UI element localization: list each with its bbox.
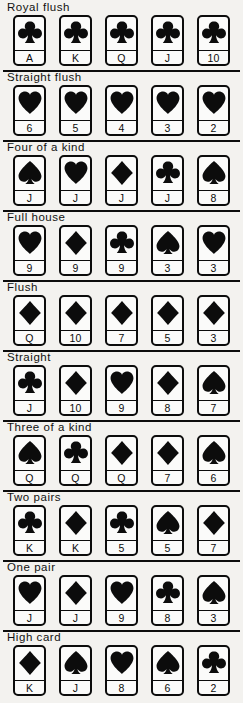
club-suit-icon — [61, 19, 90, 47]
heart-suit-icon — [199, 229, 228, 257]
card-row: Q10753 — [0, 295, 243, 349]
card-rank-label: 2 — [199, 681, 228, 695]
heart-suit-icon — [199, 89, 228, 117]
diamond-suit-icon — [61, 369, 90, 397]
club-suit-icon — [153, 579, 182, 607]
card-rank-label: 10 — [61, 331, 90, 345]
playing-card: 3 — [197, 575, 230, 626]
playing-card: 3 — [151, 85, 184, 136]
diamond-suit-icon — [199, 509, 228, 537]
playing-card: J — [59, 575, 92, 626]
card-rank-label: 10 — [61, 401, 90, 415]
playing-card: Q — [105, 15, 138, 66]
card-rank-label: Q — [61, 471, 90, 485]
card-rank-label: 7 — [199, 541, 228, 555]
diamond-suit-icon — [107, 159, 136, 187]
playing-card: 9 — [105, 365, 138, 416]
diamond-suit-icon — [61, 509, 90, 537]
playing-card: A — [13, 15, 46, 66]
card-row: 65432 — [0, 85, 243, 139]
card-rank-label: 5 — [61, 121, 90, 135]
heart-suit-icon — [107, 369, 136, 397]
playing-card: 10 — [59, 365, 92, 416]
card-rank-label: 9 — [107, 611, 136, 625]
club-suit-icon — [15, 19, 44, 47]
card-rank-label: 8 — [153, 611, 182, 625]
playing-card: 6 — [13, 85, 46, 136]
card-rank-label: 8 — [107, 681, 136, 695]
playing-card: 4 — [105, 85, 138, 136]
card-rank-label: 5 — [153, 331, 182, 345]
playing-card: 9 — [105, 575, 138, 626]
section-divider — [3, 280, 240, 282]
card-rank-label: 2 — [199, 121, 228, 135]
spade-suit-icon — [199, 579, 228, 607]
diamond-suit-icon — [153, 299, 182, 327]
heart-suit-icon — [15, 579, 44, 607]
card-row: KK557 — [0, 505, 243, 559]
playing-card: 8 — [197, 155, 230, 206]
card-rank-label: Q — [107, 51, 136, 65]
diamond-suit-icon — [61, 579, 90, 607]
playing-card: 8 — [151, 575, 184, 626]
spade-suit-icon — [15, 439, 44, 467]
card-rank-label: 9 — [61, 261, 90, 275]
card-rank-label: 5 — [153, 541, 182, 555]
card-rank-label: J — [61, 681, 90, 695]
club-suit-icon — [153, 159, 182, 187]
heart-suit-icon — [153, 89, 182, 117]
club-suit-icon — [15, 509, 44, 537]
hand-name-label: Flush — [7, 281, 38, 294]
playing-card: 5 — [151, 295, 184, 346]
hand-name-label: One pair — [7, 561, 56, 574]
playing-card: K — [59, 505, 92, 556]
playing-card: J — [151, 155, 184, 206]
playing-card: Q — [13, 295, 46, 346]
club-suit-icon — [61, 439, 90, 467]
hand-section-three-of-a-kind: Three of a kindQQQ76 — [0, 420, 243, 490]
card-rank-label: J — [153, 51, 182, 65]
card-rank-label: 3 — [153, 261, 182, 275]
hand-name-label: High card — [7, 631, 61, 644]
playing-card: 6 — [151, 645, 184, 696]
card-rank-label: 8 — [153, 401, 182, 415]
heart-suit-icon — [61, 89, 90, 117]
heart-suit-icon — [107, 89, 136, 117]
club-suit-icon — [15, 369, 44, 397]
playing-card: Q — [13, 435, 46, 486]
spade-suit-icon — [153, 229, 182, 257]
card-rank-label: 9 — [15, 261, 44, 275]
playing-card: K — [59, 15, 92, 66]
playing-card: 3 — [151, 225, 184, 276]
playing-card: 5 — [151, 505, 184, 556]
card-rank-label: A — [15, 51, 44, 65]
playing-card: 5 — [105, 505, 138, 556]
hand-name-label: Straight — [7, 351, 51, 364]
playing-card: J — [13, 575, 46, 626]
hand-section-high-card: High cardKJ862 — [0, 630, 243, 700]
playing-card: 9 — [13, 225, 46, 276]
club-suit-icon — [199, 19, 228, 47]
heart-suit-icon — [15, 89, 44, 117]
hand-section-straight: StraightJ10987 — [0, 350, 243, 420]
card-row: QQQ76 — [0, 435, 243, 489]
card-rank-label: 6 — [15, 121, 44, 135]
hand-section-flush: FlushQ10753 — [0, 280, 243, 350]
club-suit-icon — [199, 649, 228, 677]
playing-card: Q — [59, 435, 92, 486]
spade-suit-icon — [199, 439, 228, 467]
card-rank-label: Q — [15, 331, 44, 345]
hand-section-four-of-a-kind: Four of a kindJJJJ8 — [0, 140, 243, 210]
card-row: JJJJ8 — [0, 155, 243, 209]
heart-suit-icon — [107, 649, 136, 677]
playing-card: 7 — [197, 505, 230, 556]
heart-suit-icon — [61, 159, 90, 187]
diamond-suit-icon — [107, 299, 136, 327]
card-rank-label: J — [153, 191, 182, 205]
card-rank-label: 7 — [153, 471, 182, 485]
club-suit-icon — [107, 229, 136, 257]
card-rank-label: 5 — [107, 541, 136, 555]
playing-card: Q — [105, 435, 138, 486]
hand-name-label: Four of a kind — [7, 141, 85, 154]
card-rank-label: 7 — [199, 401, 228, 415]
